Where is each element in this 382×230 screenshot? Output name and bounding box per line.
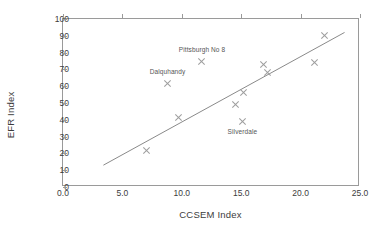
x-tick-label: 10.0 <box>162 188 202 198</box>
x-tick-mark <box>360 14 361 18</box>
plot-inner: 0102030405060708090100 0.05.010.015.020.… <box>63 19 358 185</box>
y-tick-mark <box>63 153 67 154</box>
data-point-label: Pittsburgh No 8 <box>179 46 225 53</box>
x-tick-label: 20.0 <box>281 188 321 198</box>
data-point-label: Dalquhandy <box>150 68 186 75</box>
scatter-chart-figure: EFR Index 0102030405060708090100 0.05.01… <box>0 0 382 230</box>
x-tick-mark <box>182 14 183 18</box>
y-tick-mark <box>63 86 67 87</box>
x-tick-label: 0.0 <box>43 188 83 198</box>
x-tick-mark <box>241 14 242 18</box>
x-tick-label: 15.0 <box>221 188 261 198</box>
y-tick-mark <box>63 19 67 20</box>
x-tick-mark <box>301 14 302 18</box>
x-tick-mark <box>122 14 123 18</box>
y-tick-mark <box>63 69 67 70</box>
y-tick-mark <box>63 53 67 54</box>
y-tick-mark <box>63 170 67 171</box>
x-tick-label: 5.0 <box>102 188 142 198</box>
plot-area: 0102030405060708090100 0.05.010.015.020.… <box>62 18 359 186</box>
x-tick-mark <box>63 14 64 18</box>
y-tick-mark <box>63 137 67 138</box>
x-axis-title: CCSEM Index <box>62 209 359 220</box>
trend-line <box>63 19 360 187</box>
y-tick-mark <box>63 36 67 37</box>
x-tick-label: 25.0 <box>340 188 380 198</box>
y-tick-mark <box>63 103 67 104</box>
y-tick-mark <box>63 120 67 121</box>
data-point-label: Silverdale <box>228 128 258 135</box>
y-axis-title: EFR Index <box>2 0 18 230</box>
